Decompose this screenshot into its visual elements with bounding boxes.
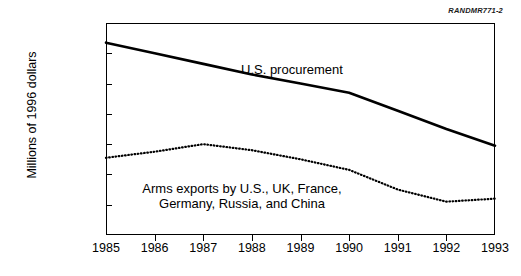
x-axis-tick-mark (446, 235, 447, 241)
x-axis-tick-mark (398, 235, 399, 241)
y-axis-tick-mark (106, 205, 112, 206)
y-axis-tick-mark (106, 53, 112, 54)
x-axis-tick-label: 1993 (465, 242, 521, 255)
x-axis-tick-mark (203, 235, 204, 241)
y-axis-tick-mark (106, 174, 112, 175)
figure-root: RANDMR771-2 Millions of 1996 dollars 020… (0, 0, 521, 276)
x-axis-tick-mark (155, 235, 156, 241)
annotation-arms-exports-line2: Germany, Russia, and China (159, 196, 325, 211)
x-axis-tick-mark (349, 235, 350, 241)
x-axis-tick-mark (301, 235, 302, 241)
annotation-arms-exports-line1: Arms exports by U.S., UK, France, (142, 181, 341, 196)
y-axis-tick-mark (106, 144, 112, 145)
y-axis-tick-mark (106, 114, 112, 115)
annotation-arms-exports: Arms exports by U.S., UK, France, German… (118, 181, 366, 212)
y-axis-tick-mark (106, 84, 112, 85)
x-axis-tick-mark (252, 235, 253, 241)
figure-id-label: RANDMR771-2 (448, 6, 503, 15)
y-axis-title: Millions of 1996 dollars (25, 15, 39, 215)
annotation-us-procurement: U.S. procurement (241, 62, 343, 77)
